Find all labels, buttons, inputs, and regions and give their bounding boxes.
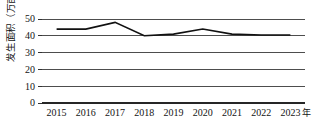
x-axis-tick-label: 2021 — [222, 107, 242, 118]
x-axis-tick-label: 2019 — [164, 107, 184, 118]
x-axis-unit-label: 年 — [302, 107, 311, 118]
x-axis-tick-labels: 201520162017201820192020202120222023 — [47, 107, 301, 118]
y-axis-tick-label: 10 — [25, 81, 35, 92]
x-axis-tick-label: 2020 — [193, 107, 213, 118]
x-axis-tick-label: 2016 — [76, 107, 96, 118]
x-axis-tick-label: 2015 — [47, 107, 67, 118]
plot-svg: 01020304050 2015201620172018201920202021… — [0, 0, 312, 126]
y-axis-tick-label: 20 — [25, 64, 35, 75]
line-chart-figure: 发生面积（万亩） 01020304050 2015201620172018201… — [0, 0, 312, 126]
y-axis-tick-labels: 01020304050 — [25, 13, 35, 108]
x-axis-tick-label: 2018 — [134, 107, 154, 118]
y-axis-tick-label: 50 — [25, 13, 35, 24]
data-series-line — [57, 22, 291, 35]
x-axis-tick-label: 2022 — [251, 107, 271, 118]
y-axis-tick-label: 0 — [30, 97, 35, 108]
plot-area-wrapper: 01020304050 2015201620172018201920202021… — [0, 0, 312, 126]
y-axis-tick-label: 30 — [25, 47, 35, 58]
y-axis-tick-label: 40 — [25, 30, 35, 41]
y-axis-tickmarks — [38, 19, 42, 103]
x-axis-tick-label: 2017 — [105, 107, 125, 118]
x-axis-tick-label: 2023 — [280, 107, 300, 118]
